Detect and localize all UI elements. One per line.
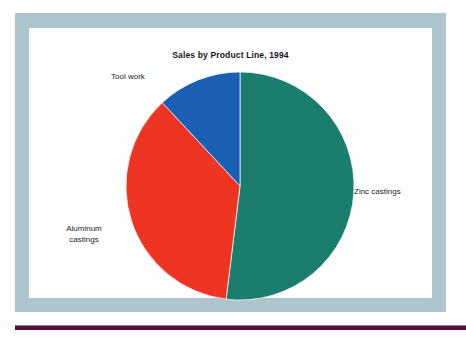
scanned-page: Sales by Product Line, 1994 Tool work Zi… (0, 0, 466, 347)
pie-chart (29, 28, 432, 298)
bottom-rule (15, 326, 466, 330)
figure-frame: Sales by Product Line, 1994 Tool work Zi… (15, 13, 446, 312)
pie-slice-zinc-castings[interactable] (226, 72, 354, 300)
pie-label-zinc-castings: Zinc castings (354, 186, 401, 197)
pie-label-aluminum-castings: Aluminum castings (41, 223, 127, 245)
pie-label-tool-work: Tool work (111, 71, 145, 82)
figure-panel: Sales by Product Line, 1994 Tool work Zi… (29, 28, 432, 298)
